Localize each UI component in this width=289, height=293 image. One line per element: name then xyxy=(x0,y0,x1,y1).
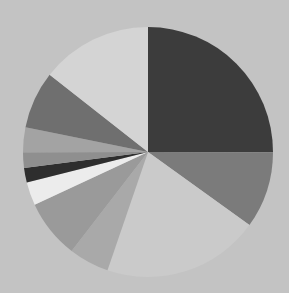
pie-slices xyxy=(23,27,273,277)
pie-chart xyxy=(0,0,289,293)
pie-chart-canvas xyxy=(0,0,289,293)
